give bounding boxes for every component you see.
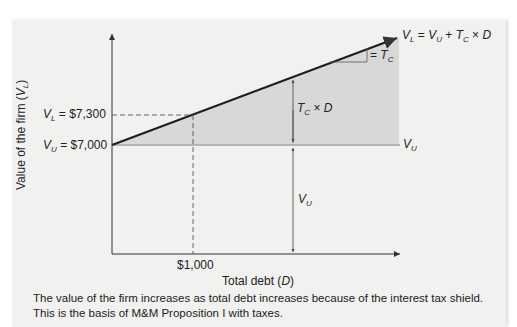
- vu-line-label: VU: [403, 137, 417, 153]
- x-tick-1000: $1,000: [177, 258, 214, 272]
- y-tick-vu-7000: VU = $7,000: [43, 138, 107, 154]
- slope-label: = TC: [370, 48, 393, 64]
- figure-caption: The value of the firm increases as total…: [33, 291, 503, 321]
- caption-line-1: The value of the firm increases as total…: [33, 291, 503, 306]
- vl-equation-label: VL = VU + TC × D: [402, 28, 491, 44]
- caption-line-2: This is the basis of M&M Proposition I w…: [33, 306, 503, 321]
- tax-shield-label: TC × D: [297, 101, 332, 117]
- y-axis-label: Value of the firm (VL): [14, 80, 30, 190]
- y-tick-vl-7300: VL = $7,300: [43, 107, 106, 123]
- x-axis-label: Total debt (D): [222, 274, 294, 288]
- vu-height-label: VU: [298, 192, 312, 208]
